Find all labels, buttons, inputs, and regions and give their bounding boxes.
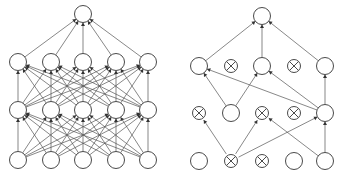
edge-arrowhead-icon bbox=[108, 69, 112, 73]
edge-arrowhead-icon bbox=[75, 21, 79, 25]
dropout-neural-net-hidden-layer-1 bbox=[193, 105, 334, 122]
edge-arrowhead-icon bbox=[90, 115, 94, 119]
active-unit-node[interactable] bbox=[43, 152, 60, 169]
dropout-neural-net-input-layer bbox=[191, 153, 334, 170]
edge-arrowhead-icon bbox=[269, 118, 273, 122]
edge-arrowhead-icon bbox=[137, 115, 141, 119]
edge-arrowhead-icon bbox=[137, 67, 141, 71]
edge-arrowhead-icon bbox=[105, 67, 109, 71]
edge-arrowhead-icon bbox=[260, 25, 264, 28]
neural-network-svg bbox=[0, 0, 338, 179]
edge-arrowhead-icon bbox=[323, 122, 327, 125]
active-unit-node[interactable] bbox=[75, 6, 92, 23]
edge-arrowhead-icon bbox=[72, 19, 76, 23]
active-unit-node[interactable] bbox=[254, 58, 271, 75]
active-unit-node[interactable] bbox=[317, 153, 334, 170]
active-unit-node[interactable] bbox=[108, 152, 125, 169]
edge-arrowhead-icon bbox=[269, 21, 273, 25]
active-unit-node[interactable] bbox=[317, 105, 334, 122]
dropout-figure bbox=[0, 0, 338, 179]
edge-arrowhead-icon bbox=[75, 69, 79, 73]
active-unit-node[interactable] bbox=[75, 152, 92, 169]
edge-arrowhead-icon bbox=[251, 21, 255, 25]
connection-edge bbox=[269, 71, 318, 108]
standard-neural-net-hidden-layer-2 bbox=[10, 54, 157, 71]
active-unit-node[interactable] bbox=[75, 102, 92, 119]
connection-edge bbox=[236, 73, 258, 106]
active-unit-node[interactable] bbox=[286, 153, 303, 170]
connection-edge bbox=[269, 118, 318, 156]
active-unit-node[interactable] bbox=[10, 102, 27, 119]
connection-edge bbox=[269, 21, 319, 60]
standard-neural-net bbox=[16, 19, 150, 157]
active-unit-node[interactable] bbox=[191, 58, 208, 75]
edge-arrowhead-icon bbox=[72, 115, 76, 119]
edge-arrowhead-icon bbox=[88, 69, 92, 73]
edges-group bbox=[16, 19, 327, 157]
edge-arrowhead-icon bbox=[140, 69, 144, 73]
active-unit-node[interactable] bbox=[43, 54, 60, 71]
active-unit-node[interactable] bbox=[191, 153, 208, 170]
edge-arrowhead-icon bbox=[23, 117, 27, 121]
edge-arrowhead-icon bbox=[269, 71, 273, 75]
standard-neural-net-output-layer bbox=[75, 6, 92, 23]
active-unit-node[interactable] bbox=[317, 58, 334, 75]
active-unit-node[interactable] bbox=[140, 54, 157, 71]
active-unit-node[interactable] bbox=[108, 102, 125, 119]
edge-arrowhead-icon bbox=[90, 19, 94, 23]
active-unit-node[interactable] bbox=[108, 54, 125, 71]
dropout-neural-net-hidden-layer-2 bbox=[191, 58, 334, 75]
edge-arrowhead-icon bbox=[23, 69, 27, 73]
edge-arrowhead-icon bbox=[88, 117, 92, 121]
active-unit-node[interactable] bbox=[10, 54, 27, 71]
edge-arrowhead-icon bbox=[56, 69, 60, 73]
active-unit-node[interactable] bbox=[223, 105, 240, 122]
edge-arrowhead-icon bbox=[146, 119, 150, 122]
edge-arrowhead-icon bbox=[114, 119, 118, 122]
active-unit-node[interactable] bbox=[140, 152, 157, 169]
active-unit-node[interactable] bbox=[43, 102, 60, 119]
edge-arrowhead-icon bbox=[16, 119, 20, 122]
edge-arrowhead-icon bbox=[114, 71, 118, 74]
edge-arrowhead-icon bbox=[49, 119, 53, 122]
standard-neural-net-hidden-layer-1 bbox=[10, 102, 157, 119]
edge-arrowhead-icon bbox=[81, 71, 85, 74]
edge-arrowhead-icon bbox=[204, 120, 208, 124]
edge-arrowhead-icon bbox=[90, 67, 94, 71]
edge-arrowhead-icon bbox=[81, 119, 85, 122]
connection-edge bbox=[90, 19, 141, 57]
edge-arrowhead-icon bbox=[146, 71, 150, 74]
active-unit-node[interactable] bbox=[10, 152, 27, 169]
active-unit-node[interactable] bbox=[254, 8, 271, 25]
dropout-neural-net bbox=[204, 21, 327, 157]
edge-arrowhead-icon bbox=[204, 73, 208, 77]
dropout-neural-net-output-layer bbox=[254, 8, 271, 25]
edge-arrowhead-icon bbox=[105, 115, 109, 119]
active-unit-node[interactable] bbox=[75, 54, 92, 71]
connection-edge bbox=[239, 117, 318, 157]
edge-arrowhead-icon bbox=[72, 67, 76, 71]
edge-arrowhead-icon bbox=[16, 71, 20, 74]
edge-arrowhead-icon bbox=[254, 73, 258, 77]
edge-arrowhead-icon bbox=[121, 69, 125, 73]
connection-edge bbox=[25, 19, 76, 57]
connection-edge bbox=[204, 73, 226, 106]
standard-neural-net-input-layer bbox=[10, 152, 157, 169]
edge-arrowhead-icon bbox=[88, 21, 92, 25]
edge-arrowhead-icon bbox=[108, 117, 112, 121]
active-unit-node[interactable] bbox=[140, 102, 157, 119]
edge-arrowhead-icon bbox=[81, 23, 85, 26]
connection-edge bbox=[204, 120, 227, 154]
connection-edge bbox=[206, 21, 256, 60]
connection-edge bbox=[207, 69, 317, 110]
edge-arrowhead-icon bbox=[323, 75, 327, 78]
